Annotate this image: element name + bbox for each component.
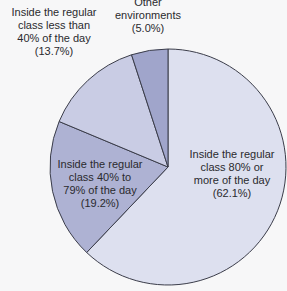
label-line: more of the day bbox=[180, 174, 284, 187]
label-less-than-40: Inside the regular class less than 40% o… bbox=[2, 6, 106, 58]
label-other-environments: Other environments (5.0%) bbox=[108, 0, 188, 35]
label-line: Other bbox=[108, 0, 188, 9]
label-line: 79% of the day bbox=[48, 184, 152, 197]
label-line: Inside the regular bbox=[180, 148, 284, 161]
label-line: environments bbox=[108, 9, 188, 22]
label-line: Inside the regular bbox=[2, 6, 106, 19]
label-value: (62.1%) bbox=[180, 187, 284, 200]
label-line: 40% of the day bbox=[2, 32, 106, 45]
label-line: class 40% to bbox=[48, 171, 152, 184]
label-line: class 80% or bbox=[180, 161, 284, 174]
label-80-or-more: Inside the regular class 80% or more of … bbox=[180, 148, 284, 200]
label-value: (19.2%) bbox=[48, 197, 152, 210]
label-40-to-79: Inside the regular class 40% to 79% of t… bbox=[48, 158, 152, 210]
label-line: class less than bbox=[2, 19, 106, 32]
label-value: (13.7%) bbox=[2, 45, 106, 58]
label-line: Inside the regular bbox=[48, 158, 152, 171]
label-value: (5.0%) bbox=[108, 22, 188, 35]
